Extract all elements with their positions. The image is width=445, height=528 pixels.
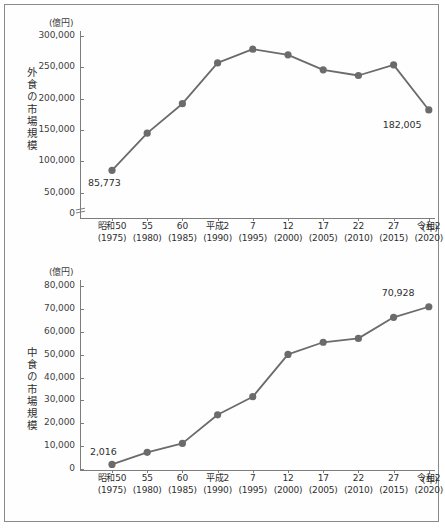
plot-area-gaishoku [80, 31, 420, 215]
y-tick-mark [80, 99, 84, 100]
data-point [249, 46, 256, 53]
y-tick-label: 60,000 [5, 326, 75, 336]
data-point [144, 449, 151, 456]
chart-panel-nakashoku: (億円) 中食の市場規模 010,00020,00030,00040,00050… [5, 257, 440, 523]
figure-frame: (億円) 外食の市場規模 050,000100,000150,000200,00… [4, 4, 439, 522]
y-tick-label: 40,000 [5, 372, 75, 382]
data-point [390, 314, 397, 321]
y-tick-label: 0 [5, 463, 75, 473]
data-point [355, 335, 362, 342]
y-tick-label: 250,000 [5, 61, 75, 71]
data-point [179, 440, 186, 447]
data-point [320, 66, 327, 73]
x-axis-line-top [80, 218, 435, 219]
y-tick-mark [80, 446, 84, 447]
data-point [284, 51, 291, 58]
y-tick-mark [80, 67, 84, 68]
y-tick-mark [80, 423, 84, 424]
data-point [179, 100, 186, 107]
line-series-gaishoku [80, 31, 420, 215]
y-tick-mark [80, 332, 84, 333]
data-point [425, 303, 432, 310]
y-tick-mark [80, 469, 84, 470]
y-tick-label: 100,000 [5, 155, 75, 165]
y-tick-mark [80, 400, 84, 401]
data-point [355, 72, 362, 79]
line-series-nakashoku [80, 280, 420, 470]
y-tick-label: 70,000 [5, 303, 75, 313]
data-point [214, 411, 221, 418]
y-tick-mark [80, 286, 84, 287]
x-axis-unit-top: (年) [422, 221, 438, 234]
x-axis-line-bottom [80, 470, 435, 471]
y-tick-label: 50,000 [5, 349, 75, 359]
value-label: 85,773 [88, 177, 121, 188]
y-tick-label: 20,000 [5, 417, 75, 427]
data-point [320, 339, 327, 346]
value-label: 70,928 [382, 287, 415, 298]
y-tick-label: 300,000 [5, 30, 75, 40]
unit-label-bottom: (億円) [49, 265, 73, 278]
data-point [108, 167, 115, 174]
y-tick-label: 150,000 [5, 124, 75, 134]
y-axis-title-gaishoku: 外食の市場規模 [24, 67, 37, 152]
y-tick-mark [80, 36, 84, 37]
data-point [284, 351, 291, 358]
plot-area-nakashoku [80, 280, 420, 470]
y-tick-label: 10,000 [5, 440, 75, 450]
x-tick-year: (2020) [405, 233, 445, 245]
x-tick-year: (2020) [405, 485, 445, 497]
data-point [249, 393, 256, 400]
y-tick-mark [80, 355, 84, 356]
y-tick-mark [80, 161, 84, 162]
chart-panel-gaishoku: (億円) 外食の市場規模 050,000100,000150,000200,00… [5, 5, 440, 257]
y-tick-label: 200,000 [5, 93, 75, 103]
data-point [144, 130, 151, 137]
data-point [390, 61, 397, 68]
y-tick-label: 30,000 [5, 394, 75, 404]
data-point [108, 461, 115, 468]
axis-break-icon [75, 202, 87, 221]
x-axis-unit-bottom: (年) [422, 473, 438, 486]
y-tick-label: 50,000 [5, 187, 75, 197]
value-label: 182,005 [383, 119, 422, 130]
data-point [425, 106, 432, 113]
y-tick-mark [80, 193, 84, 194]
y-axis-line-top [80, 31, 81, 218]
unit-label-top: (億円) [49, 16, 73, 29]
y-tick-mark [80, 309, 84, 310]
data-point [214, 59, 221, 66]
y-tick-label: 0 [5, 208, 75, 218]
y-tick-mark [80, 130, 84, 131]
value-label: 2,016 [90, 446, 117, 457]
y-tick-mark [80, 378, 84, 379]
y-tick-label: 80,000 [5, 280, 75, 290]
